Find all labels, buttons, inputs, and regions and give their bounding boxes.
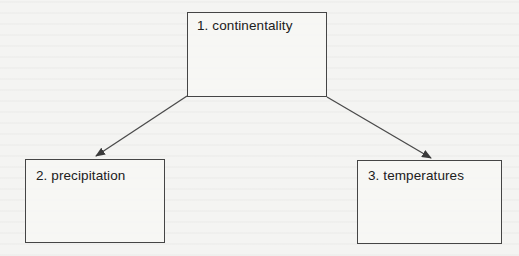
edge-1-to-3-arrow	[327, 97, 431, 158]
node-precipitation: 2. precipitation	[25, 159, 165, 243]
node-temperatures: 3. temperatures	[357, 160, 502, 244]
edge-1-to-2-arrow	[96, 96, 187, 156]
node-continentality: 1. continentality	[187, 12, 327, 97]
node-label-temperatures: 3. temperatures	[368, 168, 464, 183]
diagram-canvas: 1. continentality 2. precipitation 3. te…	[0, 0, 519, 256]
node-label-continentality: 1. continentality	[197, 18, 293, 33]
node-label-precipitation: 2. precipitation	[36, 168, 125, 183]
